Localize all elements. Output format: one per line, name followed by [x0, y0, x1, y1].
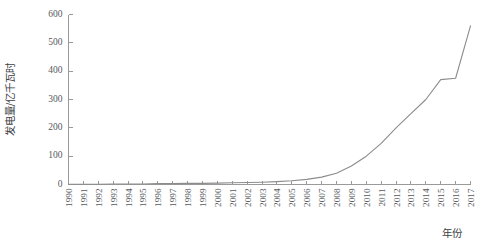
x-tick-label: 2012	[392, 188, 402, 207]
y-tick-label: 300	[48, 94, 63, 104]
x-tick-label: 1999	[198, 188, 208, 207]
y-tick-label: 0	[58, 179, 63, 189]
x-tick-label: 1992	[94, 188, 104, 207]
x-tick-label: 2011	[377, 188, 387, 206]
plot-area: 0100200300400500600 19901991199219931994…	[4, 9, 476, 239]
x-tick-label: 1997	[168, 188, 178, 207]
x-tick-label: 2007	[317, 188, 327, 207]
x-tick-label: 2013	[406, 188, 416, 207]
x-tick-label: 2017	[466, 188, 476, 207]
x-tick-label: 2008	[332, 188, 342, 207]
x-tick-label: 1996	[153, 188, 163, 207]
y-tick-label: 200	[48, 122, 63, 132]
x-tick-label: 2001	[228, 188, 238, 207]
x-tick-label: 1993	[109, 188, 119, 207]
axis-ticks	[69, 15, 471, 185]
x-tick-label: 1990	[64, 188, 74, 207]
chart-container: 0100200300400500600 19901991199219931994…	[0, 0, 485, 245]
x-tick-label: 1991	[79, 188, 89, 207]
x-tick-label: 1994	[124, 188, 134, 207]
x-tick-label: 2005	[287, 188, 297, 207]
x-tick-label: 2015	[436, 188, 446, 207]
x-tick-label: 2006	[302, 188, 312, 207]
x-tick-label: 2002	[243, 188, 253, 207]
x-tick-label: 2014	[421, 188, 431, 207]
x-tick-label: 1995	[138, 188, 148, 207]
x-tick-label: 2010	[362, 188, 372, 207]
x-tick-label: 2016	[451, 188, 461, 207]
data-series-line	[69, 26, 471, 184]
y-tick-label: 100	[48, 150, 63, 160]
y-tick-label: 400	[48, 65, 63, 75]
y-axis-title: 发电量/亿千瓦时	[4, 62, 16, 137]
x-tick-label: 1998	[183, 188, 193, 207]
x-tick-labels: 1990199119921993199419951996199719981999…	[64, 188, 476, 207]
x-tick-label: 2004	[272, 188, 282, 207]
y-tick-labels: 0100200300400500600	[48, 9, 63, 189]
x-tick-label: 2003	[258, 188, 268, 207]
y-tick-label: 600	[48, 9, 63, 19]
x-tick-label: 2000	[213, 188, 223, 207]
x-axis-title: 年份	[442, 227, 463, 239]
line-chart: 0100200300400500600 19901991199219931994…	[0, 0, 485, 245]
x-tick-label: 2009	[347, 188, 357, 207]
y-tick-label: 500	[48, 37, 63, 47]
